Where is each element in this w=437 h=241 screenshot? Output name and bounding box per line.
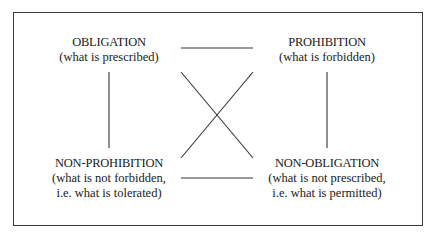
- node-title: NON-PROHIBITION: [29, 156, 189, 171]
- node-non-obligation: NON-OBLIGATION (what is not prescribed, …: [247, 156, 407, 201]
- node-description-line1: (what is not forbidden,: [29, 171, 189, 186]
- node-description: (what is prescribed): [29, 50, 189, 65]
- node-description: (what is forbidden): [247, 50, 407, 65]
- node-non-prohibition: NON-PROHIBITION (what is not forbidden, …: [29, 156, 189, 201]
- node-obligation: OBLIGATION (what is prescribed): [29, 35, 189, 65]
- node-description-line1: (what is not prescribed,: [247, 171, 407, 186]
- node-title: OBLIGATION: [29, 35, 189, 50]
- node-title: PROHIBITION: [247, 35, 407, 50]
- node-description-line2: i.e. what is permitted): [247, 186, 407, 201]
- node-prohibition: PROHIBITION (what is forbidden): [247, 35, 407, 65]
- node-title: NON-OBLIGATION: [247, 156, 407, 171]
- node-description-line2: i.e. what is tolerated): [29, 186, 189, 201]
